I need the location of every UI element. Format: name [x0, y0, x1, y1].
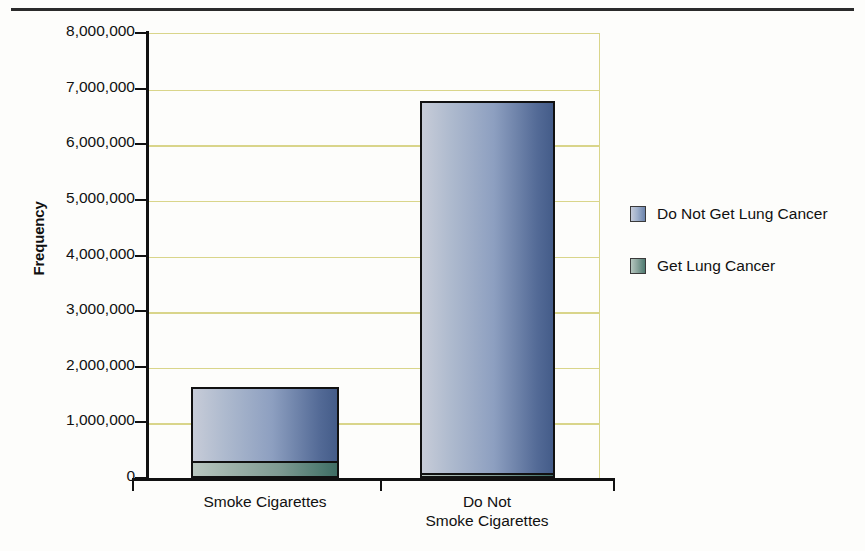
y-axis-tick	[135, 88, 148, 90]
legend-item-do-not-get-lung-cancer[interactable]: Do Not Get Lung Cancer	[630, 205, 828, 223]
bar-segment-do-not-get-lung-cancer[interactable]	[420, 101, 555, 475]
y-axis-tick	[135, 199, 148, 201]
y-axis-title: Frequency	[30, 179, 47, 299]
legend-swatch-icon	[630, 258, 646, 274]
y-axis-tick	[135, 143, 148, 145]
x-axis-category-label: Smoke Cigarettes	[155, 492, 375, 511]
x-axis-line	[132, 478, 615, 481]
chart-title	[120, 0, 620, 4]
bar-segment-get-lung-cancer[interactable]	[420, 473, 555, 478]
y-axis-tick	[135, 310, 148, 312]
x-axis-tick	[132, 478, 134, 491]
header-rule	[11, 8, 854, 11]
legend-item-label: Get Lung Cancer	[657, 257, 775, 275]
y-axis-tick	[135, 255, 148, 257]
y-axis-tick	[135, 421, 148, 423]
y-axis-tick	[135, 366, 148, 368]
gridline	[148, 90, 599, 92]
x-axis-tick	[380, 478, 382, 491]
legend-item-get-lung-cancer[interactable]: Get Lung Cancer	[630, 257, 828, 275]
y-axis-tick	[135, 477, 148, 479]
legend-swatch-icon	[630, 206, 646, 222]
x-axis-tick	[613, 478, 615, 491]
chart-legend: Do Not Get Lung Cancer Get Lung Cancer	[630, 205, 828, 309]
bar-segment-do-not-get-lung-cancer[interactable]	[191, 387, 339, 463]
y-axis-tick	[135, 32, 148, 34]
bar-segment-get-lung-cancer[interactable]	[191, 461, 339, 478]
legend-item-label: Do Not Get Lung Cancer	[657, 205, 828, 223]
x-axis-category-label: Do NotSmoke Cigarettes	[377, 492, 597, 530]
chart-page: Frequency 8,000,0007,000,0006,000,0005,0…	[0, 0, 865, 551]
